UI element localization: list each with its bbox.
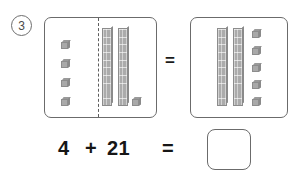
equation-addend-1: 4 — [58, 138, 69, 158]
ten-rod — [102, 28, 112, 106]
answer-input-box[interactable] — [207, 129, 251, 170]
unit-cube — [252, 46, 261, 55]
equals-sign: = — [162, 138, 174, 158]
unit-cube — [61, 78, 70, 87]
unit-cube — [252, 63, 261, 72]
unit-cube — [61, 59, 70, 68]
equation-row: 4 + 21 = — [0, 128, 298, 173]
unit-cube — [252, 80, 261, 89]
problem-number-badge: 3 — [11, 15, 32, 36]
unit-cube — [252, 29, 261, 38]
worksheet-problem: 3 = 4 + 21 = — [0, 0, 298, 173]
unit-cube — [61, 97, 70, 106]
unit-cube — [61, 40, 70, 49]
addends-panel — [44, 17, 157, 118]
unit-cube — [132, 97, 141, 106]
sum-panel — [190, 17, 288, 118]
dashed-divider — [98, 18, 99, 117]
plus-sign: + — [85, 138, 97, 158]
ten-rod — [118, 28, 128, 106]
equals-sign-between-panels: = — [165, 52, 175, 69]
ten-rod — [217, 28, 227, 106]
equation-addend-2: 21 — [107, 138, 130, 158]
ten-rod — [233, 28, 243, 106]
unit-cube — [252, 97, 261, 106]
